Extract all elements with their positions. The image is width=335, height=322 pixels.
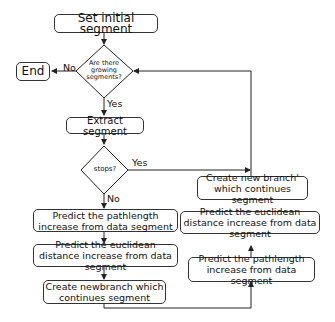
left-predict-euclid-node: Predict the euclidean distance increase … bbox=[33, 244, 178, 267]
edge-label-growing-no: No bbox=[63, 62, 76, 73]
end-node: End bbox=[16, 62, 50, 81]
decision-stops-label: stops? bbox=[88, 166, 122, 173]
right-predict-path-node: Predict the pathlength increase from dat… bbox=[188, 257, 315, 282]
decision-growing-label: Are there growing segments? bbox=[84, 60, 124, 81]
right-create-node: Create new branch' which continues segme… bbox=[197, 176, 308, 200]
left-predict-path-node: Predict the pathlength increase from dat… bbox=[33, 209, 178, 232]
start-node: Set initial segment bbox=[54, 14, 158, 33]
edge-label-stops-yes: Yes bbox=[132, 157, 147, 168]
edge-label-growing-yes: Yes bbox=[107, 98, 122, 109]
right-predict-euclid-node: Predict the euclidean distance increase … bbox=[180, 211, 320, 234]
extract-node: Extract segment bbox=[66, 117, 144, 134]
edge-label-stops-no: No bbox=[107, 193, 120, 204]
left-create-node: Create newbranch which continues segment bbox=[43, 280, 166, 304]
